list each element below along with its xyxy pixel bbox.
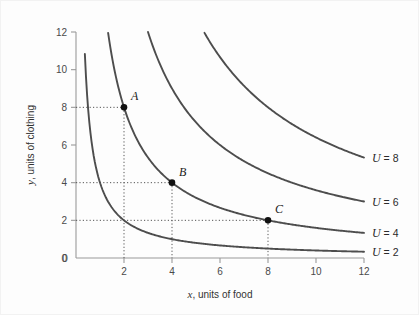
indifference-curve — [204, 33, 364, 158]
data-point — [121, 104, 128, 111]
x-axis-title: x, units of food — [187, 288, 253, 300]
y-tick-label: 6 — [61, 140, 67, 151]
x-tick-label: 10 — [310, 266, 322, 277]
indifference-curve — [85, 54, 364, 252]
data-point — [265, 217, 272, 224]
x-axis-ticks: 024681012 — [62, 253, 370, 277]
y-axis-title: y, units of clothing — [24, 105, 36, 186]
chart-canvas: 024681012 024681012 U = 2U = 4U = 6U = 8… — [1, 1, 419, 315]
axes-group: 024681012 024681012 — [56, 27, 370, 278]
y-tick-label: 2 — [61, 215, 67, 226]
curve-label: U = 8 — [372, 151, 399, 165]
point-labels-group: ABC — [130, 89, 284, 216]
x-tick-label: 4 — [169, 266, 175, 277]
x-tick-label: 0 — [62, 253, 68, 264]
y-tick-label: 12 — [56, 27, 68, 38]
x-tick-label: 2 — [121, 266, 127, 277]
curve-label: U = 6 — [372, 195, 399, 209]
curve-labels-group: U = 2U = 4U = 6U = 8 — [372, 151, 399, 259]
indifference-curve-figure: 024681012 024681012 U = 2U = 4U = 6U = 8… — [0, 0, 419, 315]
x-tick-label: 6 — [217, 266, 223, 277]
data-point — [169, 179, 176, 186]
x-tick-label: 12 — [358, 266, 370, 277]
y-axis-ticks: 024681012 — [56, 27, 76, 264]
indifference-curve — [108, 33, 364, 233]
curve-label: U = 4 — [372, 226, 399, 240]
y-tick-label: 10 — [56, 64, 68, 75]
y-tick-label: 8 — [61, 102, 67, 113]
y-tick-label: 4 — [61, 177, 67, 188]
x-tick-label: 8 — [265, 266, 271, 277]
indifference-curves-group — [85, 32, 364, 252]
data-point-label: B — [179, 165, 187, 179]
data-point-label: C — [275, 202, 284, 216]
curve-label: U = 2 — [372, 245, 399, 259]
data-point-label: A — [130, 89, 139, 103]
